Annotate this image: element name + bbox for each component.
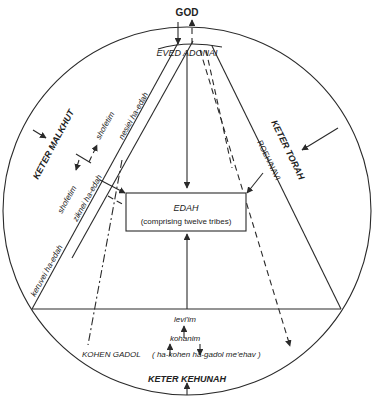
roeh-navi-label: ROEH/NAVI: [255, 139, 282, 182]
edah-title: EDAH: [173, 203, 199, 213]
left-band-dash-box: [108, 196, 124, 205]
kohen-gadol-label: KOHEN GADOL: [82, 350, 141, 359]
ziknei-label: ziknei ha-edah: [70, 173, 104, 224]
dashed-line-right2: [206, 50, 232, 168]
kohen-gadol-hebrew-label: ( ha-kohen ha-gadol me'ehav ): [152, 350, 261, 359]
leviim-label: levi'im: [174, 315, 196, 324]
kohanim-label: kohanim: [170, 334, 201, 343]
keter-malkhut-arrow: [33, 130, 46, 138]
keruvei-label: keruvei ha-edah: [29, 243, 65, 298]
keter-malkhut-label: KETER MALKHUT: [31, 106, 77, 180]
left-triangle-line: [32, 43, 178, 309]
nesiei-label: nesiei ha-edah: [117, 90, 151, 141]
covenant-diagram: GOD EVED ADONAI EDAH (comprising twelve …: [0, 0, 374, 414]
left-band-arrow-box: [100, 180, 125, 193]
keter-kehunah-label: KETER KEHUNAH: [148, 374, 227, 384]
god-label: GOD: [176, 7, 199, 18]
shofetim-arrow-down: [76, 160, 79, 170]
roeh-arrow: [247, 173, 263, 193]
shofetim-arrow-up: [89, 145, 97, 162]
keter-torah-arrow: [302, 128, 338, 150]
edah-subtitle: (comprising twelve tribes): [141, 217, 232, 226]
shofetim-upper-label: shofetim: [94, 110, 117, 141]
eved-adonai-label: EVED ADONAI: [156, 48, 218, 58]
